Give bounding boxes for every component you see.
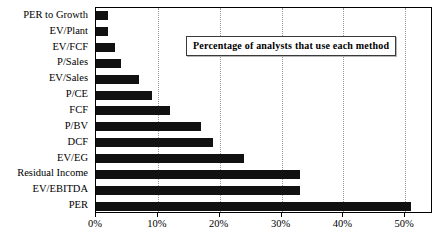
category-label: EV/Sales (49, 72, 88, 83)
bar (96, 59, 121, 68)
bar (96, 75, 139, 84)
x-tick-label: 40% (333, 218, 352, 229)
x-tick-label: 30% (271, 218, 290, 229)
x-tick (404, 213, 405, 217)
category-label: EV/EG (57, 152, 88, 163)
x-tick (342, 213, 343, 217)
category-label: P/Sales (57, 56, 88, 67)
category-label: PER to Growth (23, 9, 88, 20)
bar-row (96, 119, 432, 135)
chart-title-box: Percentage of analysts that use each met… (186, 36, 396, 56)
bar-chart: PER to GrowthEV/PlantEV/FCFP/SalesEV/Sal… (0, 0, 448, 241)
x-tick (281, 213, 282, 217)
bar (96, 202, 411, 211)
category-label: PER (69, 199, 88, 210)
category-label: P/BV (65, 120, 88, 131)
bar-row (96, 182, 432, 198)
bar-row (96, 71, 432, 87)
category-label: Residual Income (17, 167, 88, 178)
category-label: FCF (69, 104, 88, 115)
category-label: EV/EBITDA (33, 183, 88, 194)
bar (96, 138, 213, 147)
bar-row (96, 56, 432, 72)
x-tick-label: 10% (147, 218, 166, 229)
bar-row (96, 198, 432, 213)
bar (96, 154, 244, 163)
bar (96, 106, 170, 115)
bar-row (96, 135, 432, 151)
category-label: EV/FCF (52, 41, 88, 52)
x-tick-label: 0% (88, 218, 102, 229)
bar-row (96, 151, 432, 167)
category-axis: PER to GrowthEV/PlantEV/FCFP/SalesEV/Sal… (0, 7, 92, 213)
bar (96, 91, 152, 100)
category-label: P/CE (66, 88, 88, 99)
category-label: EV/Plant (50, 25, 89, 36)
bar (96, 186, 300, 195)
bar-row (96, 166, 432, 182)
category-label: DCF (68, 136, 88, 147)
x-tick (95, 213, 96, 217)
bar-row (96, 87, 432, 103)
bar (96, 43, 115, 52)
x-tick-label: 20% (209, 218, 228, 229)
x-tick-label: 50% (395, 218, 414, 229)
bar (96, 11, 108, 20)
x-axis: 0%10%20%30%40%50% (95, 213, 432, 241)
bar-row (96, 8, 432, 24)
x-tick (219, 213, 220, 217)
bar (96, 170, 300, 179)
x-tick (157, 213, 158, 217)
bar (96, 27, 108, 36)
bar (96, 122, 201, 131)
bar-row (96, 103, 432, 119)
chart-title-text: Percentage of analysts that use each met… (193, 40, 389, 51)
